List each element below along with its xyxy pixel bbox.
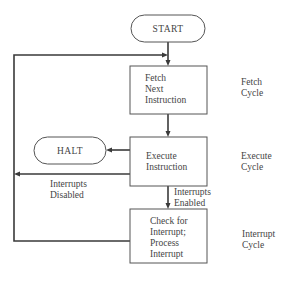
- start-label: START: [153, 24, 184, 34]
- stage-fetch-line-2: Cycle: [241, 88, 263, 98]
- fetch-label-line-3: Instruction: [145, 95, 186, 105]
- stage-fetch-line-1: Fetch: [241, 77, 262, 87]
- interrupt-label-line-1: Check for: [150, 216, 189, 226]
- fetch-label-line-1: Fetch: [145, 73, 166, 83]
- interrupts-disabled-label-line-1: Interrupts: [50, 179, 87, 189]
- stage-interrupt-cycle: Interrupt Cycle: [242, 229, 276, 250]
- interrupt-label-line-3: Process: [150, 238, 179, 248]
- start-node: START: [131, 15, 205, 42]
- interrupts-enabled-label-line-1: Interrupts: [174, 187, 211, 197]
- interrupt-label-line-2: Interrupt;: [150, 227, 186, 237]
- stage-execute-cycle: Execute Cycle: [241, 151, 272, 172]
- execute-label-line-2: Instruction: [146, 162, 187, 172]
- fetch-node: Fetch Next Instruction: [130, 66, 207, 114]
- execute-node: Execute Instruction: [130, 137, 207, 186]
- stage-interrupt-line-2: Cycle: [242, 240, 264, 250]
- fetch-label-line-2: Next: [145, 84, 164, 94]
- interrupts-enabled-label-line-2: Enabled: [174, 198, 205, 208]
- stage-fetch-cycle: Fetch Cycle: [241, 77, 263, 98]
- stage-execute-line-2: Cycle: [241, 162, 263, 172]
- interrupt-label-line-4: Interrupt: [150, 249, 184, 259]
- arrowhead-execute: [166, 131, 171, 137]
- interrupt-node: Check for Interrupt; Process Interrupt: [130, 209, 207, 263]
- arrowhead-halt: [106, 148, 112, 153]
- arrowhead-fetch: [166, 60, 171, 66]
- interrupts-disabled-label-line-2: Disabled: [50, 190, 84, 200]
- instruction-cycle-flowchart: START Fetch Next Instruction Execute Ins…: [0, 0, 294, 289]
- stage-interrupt-line-1: Interrupt: [242, 229, 276, 239]
- halt-label: HALT: [57, 146, 83, 156]
- loop-arrowhead: [162, 53, 168, 58]
- arrowhead-interrupts-disabled: [14, 172, 20, 177]
- execute-label-line-1: Execute: [146, 151, 177, 161]
- arrowhead-interrupt: [166, 203, 171, 209]
- stage-execute-line-1: Execute: [241, 151, 272, 161]
- halt-node: HALT: [34, 137, 106, 164]
